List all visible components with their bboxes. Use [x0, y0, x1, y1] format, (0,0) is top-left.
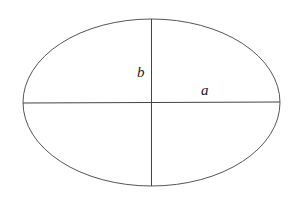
label-a: a	[201, 82, 209, 98]
label-b: b	[137, 64, 145, 80]
ellipse-diagram: b a	[0, 0, 296, 201]
